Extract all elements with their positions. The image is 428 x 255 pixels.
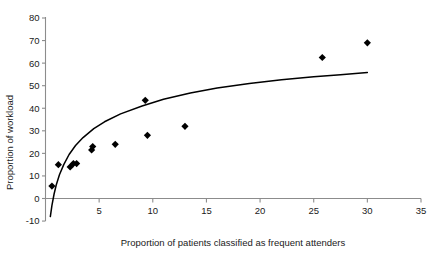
y-tick-label: 60	[29, 58, 40, 69]
x-tick-label: 10	[147, 205, 158, 216]
data-points-group	[48, 39, 371, 189]
y-tick-label: 30	[29, 125, 40, 136]
x-tick-label: 5	[96, 205, 101, 216]
scatter-chart: Proportion of workload -1001020304050607…	[0, 0, 428, 255]
data-point-marker	[55, 161, 62, 168]
y-tick-label: 0	[34, 193, 39, 204]
data-point-marker	[144, 132, 151, 139]
x-axis-ticks: 5101520253035	[96, 199, 426, 216]
y-axis-title: Proportion of workload	[4, 95, 15, 190]
data-point-marker	[142, 97, 149, 104]
data-point-marker	[112, 141, 119, 148]
y-tick-label: 20	[29, 148, 40, 159]
y-tick-label: 70	[29, 35, 40, 46]
y-tick-label: 40	[29, 103, 40, 114]
chart-canvas: Proportion of workload -1001020304050607…	[0, 0, 428, 255]
x-tick-label: 20	[255, 205, 266, 216]
y-tick-label: -10	[26, 215, 40, 226]
y-axis-ticks: -1001020304050607080	[26, 12, 46, 226]
y-tick-label: 10	[29, 170, 40, 181]
x-tick-label: 30	[362, 205, 373, 216]
data-point-marker	[319, 54, 326, 61]
x-tick-label: 15	[201, 205, 212, 216]
data-point-marker	[181, 123, 188, 130]
y-tick-label: 50	[29, 80, 40, 91]
x-tick-label: 25	[308, 205, 319, 216]
data-point-marker	[48, 182, 55, 189]
data-point-marker	[364, 39, 371, 46]
x-tick-label: 35	[416, 205, 427, 216]
fitted-curve	[50, 73, 367, 217]
y-tick-label: 80	[29, 12, 40, 23]
x-axis-title: Proportion of patients classified as fre…	[121, 237, 346, 248]
